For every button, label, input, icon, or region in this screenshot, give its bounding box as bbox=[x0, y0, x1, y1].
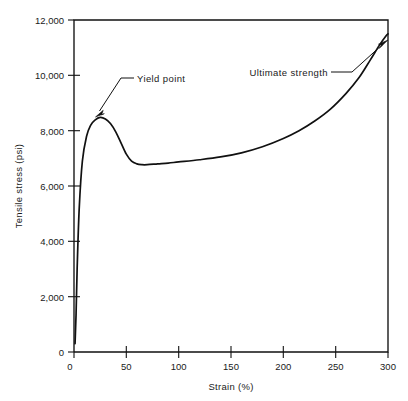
x-tick-label-300: 300 bbox=[380, 361, 396, 372]
y-tick-label-0: 0 bbox=[59, 347, 64, 358]
y-tick-label-2000: 2,000 bbox=[40, 292, 64, 303]
y-tick-label-12000: 12,000 bbox=[35, 15, 64, 26]
frame-box bbox=[74, 20, 388, 352]
x-axis-title: Strain (%) bbox=[208, 381, 253, 392]
ultimate-strength-label: Ultimate strength bbox=[249, 67, 328, 78]
yield-point-annotation: Yield point bbox=[96, 73, 186, 117]
x-tick-label-250: 250 bbox=[328, 361, 344, 372]
x-tick-label-0: 0 bbox=[67, 361, 72, 372]
yield-point-arrow-icon bbox=[96, 110, 105, 117]
plot-frame bbox=[74, 20, 388, 352]
y-tick-label-10000: 10,000 bbox=[35, 70, 64, 81]
ultimate-strength-annotation: Ultimate strength bbox=[249, 40, 388, 78]
ultimate-strength-leader-line bbox=[331, 44, 383, 72]
x-tick-label-150: 150 bbox=[223, 361, 239, 372]
y-tick-label-8000: 8,000 bbox=[40, 126, 64, 137]
y-tick-label-4000: 4,000 bbox=[40, 236, 64, 247]
chart-canvas: 12,000 10,000 8,000 6,000 4,000 2,000 0 … bbox=[0, 0, 408, 401]
y-axis-title: Tensile stress (psi) bbox=[13, 144, 24, 229]
x-tick-label-50: 50 bbox=[121, 361, 132, 372]
y-tick-label-6000: 6,000 bbox=[40, 181, 64, 192]
x-tick-label-100: 100 bbox=[171, 361, 187, 372]
yield-point-label: Yield point bbox=[137, 73, 185, 84]
x-tick-label-200: 200 bbox=[275, 361, 291, 372]
yield-point-leader-line bbox=[100, 78, 135, 111]
stress-strain-curve bbox=[75, 34, 388, 344]
x-axis-tick-labels: 0 50 100 150 200 250 300 bbox=[67, 361, 396, 372]
stress-strain-chart-figure: 12,000 10,000 8,000 6,000 4,000 2,000 0 … bbox=[0, 0, 408, 401]
y-axis-tick-labels: 12,000 10,000 8,000 6,000 4,000 2,000 0 bbox=[35, 15, 64, 358]
